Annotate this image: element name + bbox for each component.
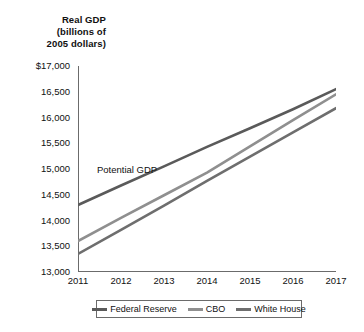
- y-tick-label: $17,000: [8, 61, 70, 71]
- y-axis-title-line-2: (billions of: [14, 26, 106, 38]
- legend-item-federal-reserve[interactable]: Federal Reserve: [92, 305, 177, 314]
- x-tick-label: 2011: [58, 276, 98, 286]
- legend-label: White House: [254, 305, 306, 314]
- x-tick-label: 2015: [230, 276, 270, 286]
- x-tick-label: 2013: [144, 276, 184, 286]
- chart-legend: Federal ReserveCBOWhite House: [96, 300, 302, 318]
- series-line-federal-reserve: [78, 89, 336, 205]
- x-tick-label: 2012: [101, 276, 141, 286]
- y-tick-label: 14,000: [8, 216, 70, 226]
- legend-swatch-icon: [236, 308, 251, 311]
- annotation-potential-gdp: Potential GDP: [97, 164, 157, 175]
- legend-label: CBO: [206, 305, 226, 314]
- legend-item-cbo[interactable]: CBO: [188, 305, 226, 314]
- x-tick-label: 2014: [187, 276, 227, 286]
- legend-swatch-icon: [188, 308, 203, 311]
- y-axis-title: Real GDP (billions of 2005 dollars): [14, 14, 106, 51]
- y-tick-label: 16,000: [8, 113, 70, 123]
- y-tick-label: 15,500: [8, 138, 70, 148]
- y-tick-label: 14,500: [8, 190, 70, 200]
- y-tick-label: 15,000: [8, 164, 70, 174]
- x-tick-label: 2016: [273, 276, 313, 286]
- legend-swatch-icon: [92, 308, 107, 311]
- x-tick-label: 2017: [316, 276, 356, 286]
- y-tick-label: 13,500: [8, 241, 70, 251]
- y-axis-title-line-1: Real GDP: [14, 14, 106, 26]
- legend-label: Federal Reserve: [110, 305, 177, 314]
- chart-figure: Real GDP (billions of 2005 dollars) 13,0…: [0, 0, 364, 332]
- legend-item-white-house[interactable]: White House: [236, 305, 306, 314]
- y-tick-label: 16,500: [8, 87, 70, 97]
- series-line-white-house: [78, 108, 336, 254]
- y-axis-title-line-3: 2005 dollars): [14, 38, 106, 50]
